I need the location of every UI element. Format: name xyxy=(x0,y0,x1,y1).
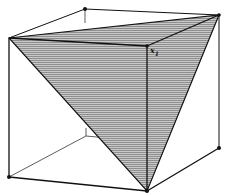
label-subscript: 1 xyxy=(155,50,159,57)
vertex-front-bottom-right xyxy=(145,189,149,193)
vertex-back-top-left xyxy=(83,7,87,11)
vertex-label-x1: x1 xyxy=(150,46,159,57)
vertex-front-top-right xyxy=(145,44,149,48)
cube-diagram xyxy=(0,0,229,195)
vertex-back-bottom-right xyxy=(217,146,221,150)
vertex-back-top-right xyxy=(217,13,221,17)
vertex-front-bottom-left xyxy=(7,175,11,179)
shaded-cross-section xyxy=(9,15,219,191)
